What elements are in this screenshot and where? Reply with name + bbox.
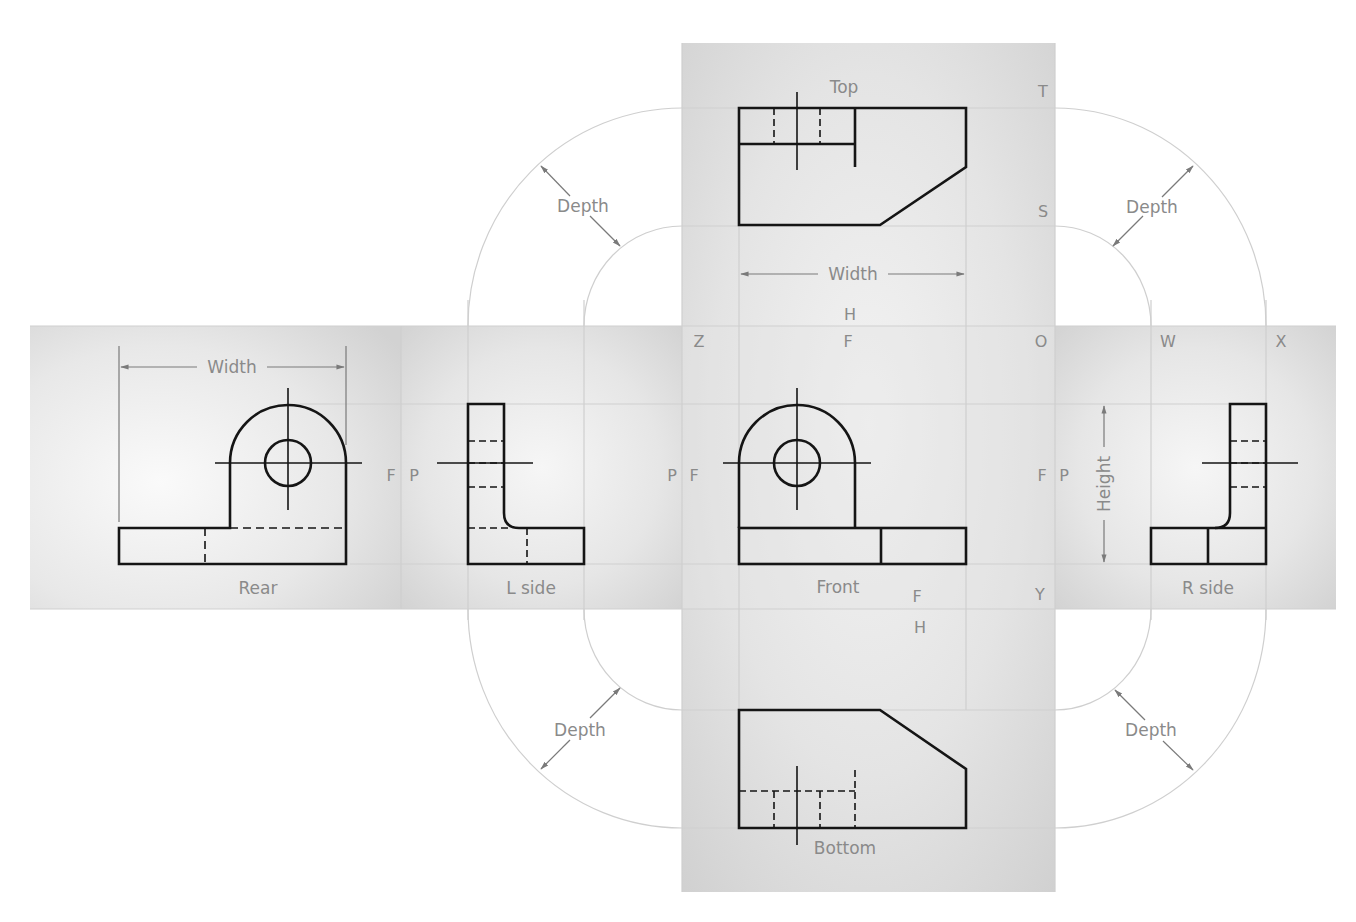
fold-letter-s: S — [1038, 202, 1048, 221]
fold-letter-p-left1: P — [409, 466, 419, 485]
left-side-panel — [401, 326, 682, 609]
fold-letter-f-left2: F — [689, 466, 698, 485]
fold-letter-z: Z — [694, 332, 705, 351]
left-side-view-label: L side — [506, 578, 556, 598]
width-label-rear: Width — [207, 357, 256, 377]
depth-label-bottom-right: Depth — [1125, 720, 1177, 740]
rear-view-label: Rear — [239, 578, 278, 598]
fold-letter-h-top: H — [844, 305, 856, 324]
right-side-view-label: R side — [1182, 578, 1234, 598]
front-view-label: Front — [817, 577, 860, 597]
width-label-top: Width — [828, 264, 877, 284]
fold-letter-f-right1: F — [1037, 466, 1046, 485]
glass-box-panels — [30, 43, 1336, 892]
fold-letter-p-right1: P — [1059, 466, 1069, 485]
bottom-view-label: Bottom — [814, 838, 876, 858]
fold-letter-f-rear: F — [386, 466, 395, 485]
fold-letter-p-left2: P — [667, 466, 677, 485]
fold-letter-t: T — [1037, 82, 1048, 101]
depth-label-bottom-left: Depth — [554, 720, 606, 740]
depth-label-top-left: Depth — [557, 196, 609, 216]
fold-letter-h-bottom: H — [914, 618, 926, 637]
height-label: Height — [1094, 456, 1114, 513]
fold-letter-w: W — [1160, 332, 1176, 351]
top-view-label: Top — [829, 77, 859, 97]
fold-letter-y: Y — [1034, 585, 1045, 604]
fold-letter-f-bottom: F — [912, 587, 921, 606]
depth-label-top-right: Depth — [1126, 197, 1178, 217]
fold-letter-x: X — [1276, 332, 1287, 351]
fold-letter-o: O — [1035, 332, 1048, 351]
glass-box-diagram: Top Width Width Rear L side — [0, 0, 1356, 922]
fold-letter-f-top: F — [843, 332, 852, 351]
